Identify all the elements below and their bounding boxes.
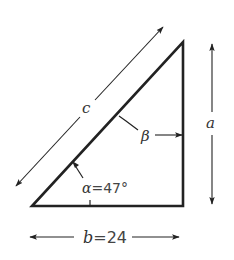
alpha-value: =47° xyxy=(91,180,128,196)
beta-label: β xyxy=(140,127,150,145)
alpha-indicator-arrowhead xyxy=(72,161,79,168)
c-label: c xyxy=(82,99,91,117)
beta-indicator-arc xyxy=(119,116,138,130)
base-dimension: b=24 xyxy=(30,228,179,247)
alpha-angle: α=47° xyxy=(72,161,128,206)
beta-angle: β xyxy=(119,116,182,145)
hypotenuse-dimension: c xyxy=(16,27,163,186)
a-label: a xyxy=(206,114,215,132)
c-arrow-upper xyxy=(95,27,163,100)
right-triangle-diagram: c a b=24 α=47° β xyxy=(0,0,234,260)
vertical-side-dimension: a xyxy=(206,44,215,204)
alpha-label: α=47° xyxy=(82,180,128,196)
c-arrow-lower xyxy=(16,117,80,186)
b-value: =24 xyxy=(93,228,127,247)
b-symbol: b xyxy=(83,228,93,247)
alpha-indicator-line xyxy=(76,167,83,178)
b-label: b=24 xyxy=(83,228,127,247)
